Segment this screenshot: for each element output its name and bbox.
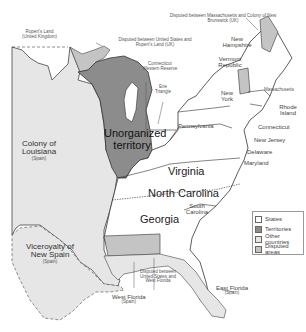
legend-swatch-disputed — [255, 246, 262, 253]
label-new-york: New York — [216, 90, 238, 103]
legend-item-states: States — [255, 214, 301, 224]
region-vermont — [238, 68, 250, 94]
legend-swatch-other-countries — [255, 236, 262, 243]
label-new-jersey: New Jersey — [254, 137, 285, 143]
label-maryland: Maryland — [244, 160, 269, 166]
label-massachusetts: Massachusetts — [264, 88, 294, 93]
legend-label: Territories — [265, 226, 291, 232]
label-louisiana-sub: (Spain) — [20, 157, 58, 162]
label-disputed-us-ruperts: Disputed between United States and Ruper… — [110, 38, 200, 47]
label-connecticut: Connecticut — [258, 124, 290, 130]
label-new-spain-name: Viceroyalty of New Spain — [22, 243, 78, 260]
label-pennsylvania: Pennsylvania — [178, 123, 214, 129]
label-south-carolina: South Carolina — [184, 203, 210, 216]
label-louisiana: Colony of Louisiana (Spain) — [20, 140, 58, 162]
legend-label: Disputed areas — [265, 243, 301, 255]
label-east-florida: East Florida (Spain) — [216, 285, 248, 296]
legend-swatch-territories — [255, 226, 262, 233]
label-georgia: Georgia — [140, 214, 179, 226]
label-new-hampshire: New Hampshire — [222, 36, 252, 49]
legend-label: States — [265, 216, 282, 222]
legend-swatch-states — [255, 216, 262, 223]
label-delaware: Delaware — [247, 149, 272, 155]
label-rhode-island: Rhode Island — [274, 104, 302, 117]
label-louisiana-name: Colony of Louisiana — [20, 140, 58, 157]
label-west-florida-sub: (Spain) — [112, 300, 146, 305]
label-north-carolina: North Carolina — [148, 188, 219, 200]
label-ruperts-land-sub: (United Kingdom) — [22, 35, 57, 40]
label-east-florida-sub: (Spain) — [216, 291, 248, 296]
label-new-spain-sub: (Spain) — [22, 260, 78, 265]
label-unorganized-territory: Unorganized territory — [104, 128, 160, 151]
label-virginia: Virginia — [168, 166, 205, 178]
label-erie-triangle: Erie Triangle — [154, 85, 172, 94]
region-disputed-south — [104, 234, 160, 256]
label-connecticut-western-reserve: Connecticut Western Reserve — [140, 62, 180, 71]
label-disputed-mass-nb: Disputed between Massachusetts and Colon… — [168, 14, 278, 23]
map-legend: States Territories Other countries Dispu… — [252, 211, 304, 255]
label-ruperts-land: Rupert's Land (United Kingdom) — [22, 30, 57, 39]
label-new-spain: Viceroyalty of New Spain (Spain) — [22, 243, 78, 265]
map-us-1789: Rupert's Land (United Kingdom) Disputed … — [0, 0, 306, 332]
label-vermont: Vermont Republic — [214, 56, 246, 69]
label-disputed-us-wf: Disputed between United States and West … — [138, 270, 178, 284]
legend-item-disputed: Disputed areas — [255, 244, 301, 254]
label-west-florida: West Florida (Spain) — [112, 294, 146, 305]
region-florida — [104, 254, 226, 318]
